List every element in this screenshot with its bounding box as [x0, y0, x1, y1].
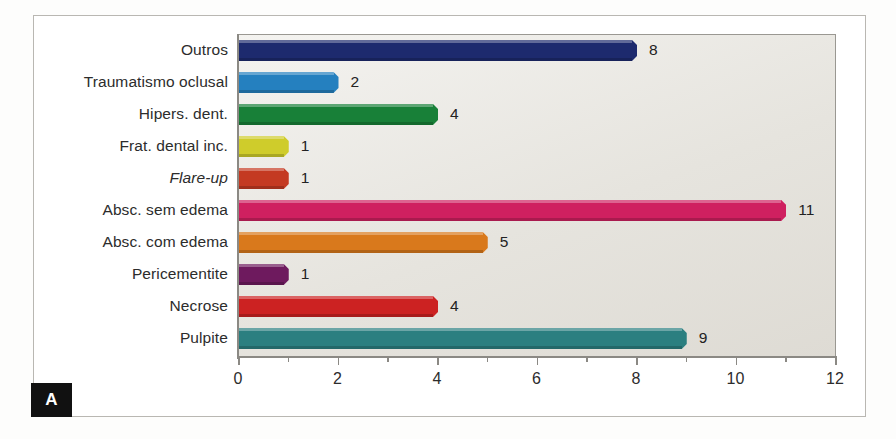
- x-tick-major: [338, 356, 340, 365]
- x-tick-label: 12: [826, 370, 844, 388]
- bar-value-label: 5: [500, 226, 509, 258]
- bar: [239, 200, 786, 221]
- category-label: Traumatismo oclusal: [0, 66, 228, 98]
- x-tick-label: 0: [234, 370, 243, 388]
- x-tick-minor: [586, 356, 588, 362]
- x-tick-label: 10: [727, 370, 745, 388]
- x-tick-label: 2: [333, 370, 342, 388]
- x-tick-label: 8: [632, 370, 641, 388]
- category-label: Absc. com edema: [0, 226, 228, 258]
- bar-row: Absc. com edema5: [0, 226, 896, 258]
- x-tick-minor: [686, 356, 688, 362]
- bar: [239, 328, 687, 349]
- x-tick-minor: [487, 356, 489, 362]
- x-tick-label: 6: [532, 370, 541, 388]
- bar: [239, 72, 339, 93]
- bar-row: Hipers. dent.4: [0, 98, 896, 130]
- bar: [239, 264, 289, 285]
- x-tick-minor: [785, 356, 787, 362]
- bar: [239, 104, 438, 125]
- x-axis: 024681012: [238, 356, 836, 416]
- bar: [239, 40, 637, 61]
- x-tick-label: 4: [433, 370, 442, 388]
- category-label: Pulpite: [0, 322, 228, 354]
- bar: [239, 296, 438, 317]
- panel-badge-label: A: [45, 390, 57, 410]
- bar-value-label: 1: [301, 162, 310, 194]
- bar: [239, 136, 289, 157]
- bar-value-label: 1: [301, 130, 310, 162]
- figure-panel: Outros8Traumatismo oclusal2Hipers. dent.…: [0, 0, 896, 439]
- x-tick-minor: [387, 356, 389, 362]
- x-tick-major: [537, 356, 539, 365]
- category-label: Necrose: [0, 290, 228, 322]
- x-tick-major: [736, 356, 738, 365]
- bar-rows: Outros8Traumatismo oclusal2Hipers. dent.…: [0, 34, 896, 356]
- bar-value-label: 4: [450, 98, 459, 130]
- x-tick-major: [636, 356, 638, 365]
- category-label: Absc. sem edema: [0, 194, 228, 226]
- x-tick-major: [437, 356, 439, 365]
- bar-value-label: 8: [649, 34, 658, 66]
- bar: [239, 232, 488, 253]
- panel-badge: A: [31, 383, 72, 417]
- bar-row: Absc. sem edema11: [0, 194, 896, 226]
- category-label: Hipers. dent.: [0, 98, 228, 130]
- bar-row: Pericementite1: [0, 258, 896, 290]
- bar-value-label: 11: [798, 194, 814, 226]
- bar-row: Traumatismo oclusal2: [0, 66, 896, 98]
- bar-value-label: 4: [450, 290, 459, 322]
- x-tick-major: [835, 356, 837, 365]
- category-label: Frat. dental inc.: [0, 130, 228, 162]
- x-tick-minor: [288, 356, 290, 362]
- bar-value-label: 9: [699, 322, 708, 354]
- bar-value-label: 1: [301, 258, 310, 290]
- category-label: Pericementite: [0, 258, 228, 290]
- bar-row: Pulpite9: [0, 322, 896, 354]
- bar-row: Frat. dental inc.1: [0, 130, 896, 162]
- category-label: Outros: [0, 34, 228, 66]
- bar: [239, 168, 289, 189]
- bar-row: Flare-up1: [0, 162, 896, 194]
- category-label: Flare-up: [0, 162, 228, 194]
- x-tick-major: [238, 356, 240, 365]
- bar-value-label: 2: [351, 66, 360, 98]
- bar-row: Outros8: [0, 34, 896, 66]
- bar-row: Necrose4: [0, 290, 896, 322]
